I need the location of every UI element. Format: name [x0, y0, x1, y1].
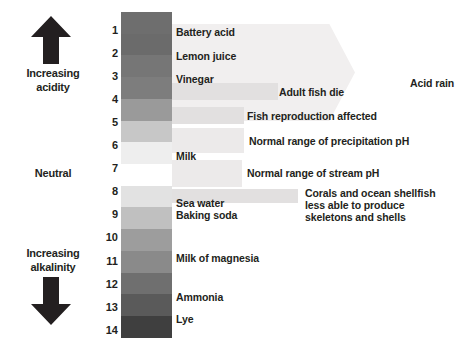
ph-scale-diagram: Increasing acidity Neutral Increasing al…: [0, 0, 471, 353]
ph-band-3: [121, 77, 172, 99]
annotation-label-corals-line3: skeletons and shells: [305, 211, 455, 223]
ph-band-11: [121, 251, 172, 273]
ph-tick-12: 12: [96, 278, 118, 290]
ph-tick-7: 7: [96, 162, 118, 174]
increasing-alkalinity-line1: Increasing: [4, 246, 102, 260]
ph-band-10: [121, 229, 172, 251]
ph-tick-1: 1: [96, 24, 118, 36]
substance-label-baking-soda: Baking soda: [176, 209, 237, 221]
annotation-bar-adult-fish-die: [172, 83, 278, 100]
ph-tick-13: 13: [96, 301, 118, 313]
ph-band-7: [121, 164, 172, 186]
ph-band-8: [121, 186, 172, 208]
substance-label-lemon-juice: Lemon juice: [176, 50, 236, 62]
substance-label-milk: Milk: [176, 150, 196, 162]
ph-tick-3: 3: [96, 70, 118, 82]
substance-label-ammonia: Ammonia: [176, 291, 223, 303]
ph-band-6: [121, 142, 172, 164]
substance-label-battery-acid: Battery acid: [176, 26, 235, 38]
neutral-label: Neutral: [4, 166, 102, 180]
ph-band-1: [121, 34, 172, 56]
ph-tick-11: 11: [96, 255, 118, 267]
ph-tick-4: 4: [96, 93, 118, 105]
annotation-label-corals-line1: Corals and ocean shellfish: [305, 187, 455, 199]
increasing-acidity-line2: acidity: [4, 80, 102, 94]
ph-band-14: [121, 316, 172, 338]
ph-band-5: [121, 121, 172, 143]
annotation-bar-stream-ph: [172, 160, 242, 187]
ph-tick-5: 5: [96, 116, 118, 128]
ph-tick-8: 8: [96, 185, 118, 197]
ph-color-strip: [121, 12, 172, 338]
increasing-acidity-line1: Increasing: [4, 66, 102, 80]
ph-band-12: [121, 273, 172, 295]
ph-band-2: [121, 55, 172, 77]
ph-band-4: [121, 99, 172, 121]
substance-label-milk-of-magnesia: Milk of magnesia: [176, 252, 259, 264]
annotation-bar-fish-reproduction: [172, 107, 244, 124]
ph-band-9: [121, 207, 172, 229]
increasing-alkalinity-label: Increasing alkalinity: [4, 246, 102, 274]
arrow-down-icon: [31, 277, 71, 329]
ph-tick-9: 9: [96, 208, 118, 220]
increasing-alkalinity-line2: alkalinity: [4, 260, 102, 274]
substance-label-lye: Lye: [176, 313, 193, 325]
annotation-label-corals: Corals and ocean shellfish less able to …: [305, 187, 455, 223]
ph-tick-14: 14: [96, 324, 118, 336]
ph-band-13: [121, 294, 172, 316]
annotation-label-stream-ph: Normal range of stream pH: [247, 167, 379, 179]
annotation-label-precipitation-ph: Normal range of precipitation pH: [249, 135, 409, 147]
ph-tick-2: 2: [96, 47, 118, 59]
annotation-label-corals-line2: less able to produce: [305, 199, 455, 211]
substance-label-vinegar: Vinegar: [176, 73, 214, 85]
annotation-label-acid-rain: Acid rain: [410, 77, 454, 89]
annotation-label-fish-reproduction: Fish reproduction affected: [247, 110, 377, 122]
substance-label-sea-water: Sea water: [176, 197, 224, 209]
annotation-label-adult-fish-die: Adult fish die: [279, 86, 344, 98]
arrow-up-icon: [31, 16, 71, 68]
ph-band-0: [121, 12, 172, 34]
ph-tick-10: 10: [96, 231, 118, 243]
increasing-acidity-label: Increasing acidity: [4, 66, 102, 94]
ph-tick-6: 6: [96, 139, 118, 151]
